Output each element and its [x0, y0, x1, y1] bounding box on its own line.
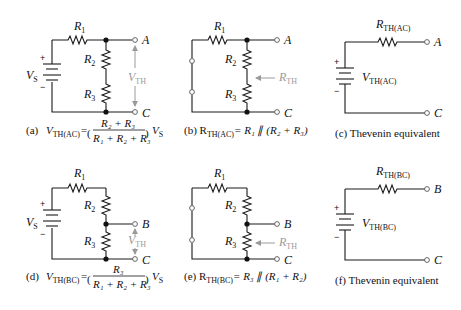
svg-text:R₃: R₃ [112, 263, 124, 275]
minus-sign: − [40, 82, 45, 92]
svg-text:−: − [334, 232, 339, 242]
caption-c: (c) Thevenin equivalent [335, 127, 440, 140]
open-terminal-bottom [190, 90, 195, 95]
svg-text:): ) [145, 127, 149, 140]
battery-icon [43, 210, 61, 226]
terminal-a [133, 38, 138, 43]
label-vs: VS [26, 68, 38, 84]
svg-text:R3: R3 [224, 87, 236, 103]
svg-text:+: + [334, 203, 339, 213]
svg-text:VS: VS [152, 270, 163, 285]
svg-text:(: ( [87, 127, 91, 140]
terminal-a-label: A [141, 33, 150, 47]
panel-a-circuit [43, 36, 137, 115]
open-terminal-top [190, 59, 195, 64]
svg-text:VTH: VTH [128, 233, 146, 249]
svg-text:RTH: RTH [278, 70, 297, 86]
terminal-c [275, 110, 280, 115]
svg-text:VTH(AC): VTH(AC) [46, 124, 80, 139]
svg-text:VTH(AC): VTH(AC) [362, 70, 397, 86]
terminal-a [275, 38, 280, 43]
svg-text:R2: R2 [224, 198, 236, 214]
label-r1: R1 [73, 19, 85, 35]
svg-text:VS: VS [152, 124, 163, 139]
svg-text:C: C [434, 106, 443, 120]
svg-text:−: − [334, 86, 339, 96]
svg-text:R₁ + R₂ + R₃: R₁ + R₂ + R₃ [92, 278, 151, 290]
svg-text:VTH(BC): VTH(BC) [362, 216, 396, 232]
panel-d-circuit [43, 184, 137, 262]
svg-text:C: C [284, 106, 293, 120]
svg-text:(a): (a) [26, 124, 39, 137]
svg-text:(: ( [87, 273, 91, 286]
svg-text:RTH: RTH [278, 235, 297, 251]
svg-text:C: C [142, 253, 151, 267]
svg-text:VTH(BC): VTH(BC) [46, 270, 80, 285]
battery-icon [336, 214, 354, 230]
battery-icon [336, 68, 354, 84]
svg-text:−: − [40, 229, 45, 239]
svg-text:B: B [434, 182, 442, 196]
svg-text:R₂ + R₃: R₂ + R₃ [100, 117, 135, 129]
svg-text:A: A [433, 35, 442, 49]
svg-text:+: + [334, 57, 339, 67]
svg-text:+: + [40, 199, 45, 209]
svg-text:R1: R1 [213, 19, 225, 35]
svg-text:C: C [284, 253, 293, 267]
svg-text:R₁ + R₂ + R₃: R₁ + R₂ + R₃ [92, 132, 151, 144]
caption-b: (b) RTH(AC)= R₁ ∥ (R₂ + R₃) [184, 124, 308, 139]
svg-text:R3: R3 [224, 234, 236, 250]
svg-text:R2: R2 [224, 52, 236, 68]
svg-text:(d): (d) [26, 270, 39, 283]
plus-sign: + [40, 53, 45, 63]
svg-text:C: C [434, 253, 443, 267]
svg-text:): ) [145, 273, 149, 286]
thevenin-figure: R1 R2 R3 VS + − A C VTH (a) VTH(AC) = ( … [0, 0, 461, 310]
svg-text:R1: R1 [73, 166, 85, 182]
label-r2: R2 [83, 52, 95, 68]
label-vth: VTH [128, 70, 146, 86]
svg-text:R2: R2 [83, 198, 95, 214]
label-r3: R3 [83, 87, 95, 103]
terminal-c [133, 110, 138, 115]
caption-f: (f) Thevenin equivalent [335, 274, 439, 287]
caption-d: (d) VTH(BC) = ( R₃ R₁ + R₂ + R₃ ) VS [26, 263, 163, 290]
battery-icon [43, 64, 61, 80]
svg-text:RTH(BC): RTH(BC) [375, 164, 410, 180]
svg-text:B: B [284, 217, 292, 231]
caption-e: (e) RTH(BC)= R₃ ∥ (R₁ + R₂) [184, 270, 307, 285]
svg-text:RTH(AC): RTH(AC) [375, 17, 411, 33]
svg-text:R3: R3 [83, 234, 95, 250]
terminal-c-label: C [142, 106, 151, 120]
svg-text:B: B [142, 217, 150, 231]
caption-a: (a) VTH(AC) = ( R₂ + R₃ R₁ + R₂ + R₃ ) V… [26, 117, 163, 144]
svg-text:A: A [283, 33, 292, 47]
svg-text:VS: VS [26, 215, 38, 231]
svg-text:R1: R1 [213, 166, 225, 182]
